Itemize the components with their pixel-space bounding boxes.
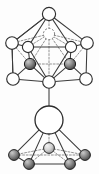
hidden-bond — [54, 149, 80, 154]
hidden-bond — [33, 38, 46, 59]
bond — [74, 68, 82, 75]
cluster-structure-figure — [0, 0, 99, 174]
atom-base-left-front — [24, 159, 35, 170]
atom-base-right-back — [80, 150, 91, 161]
atom-lower-left-outer — [7, 73, 20, 86]
hidden-bond — [18, 35, 44, 41]
bond — [12, 49, 13, 73]
cluster-structure-svg — [0, 0, 99, 174]
hidden-bond — [19, 149, 44, 154]
atom-base-right-front — [65, 159, 76, 170]
atom-lower-right-outer — [80, 73, 93, 86]
atom-upper-left-inner — [22, 41, 33, 52]
bond — [86, 49, 87, 73]
bond — [55, 79, 80, 81]
atom-shaded-left — [24, 58, 35, 69]
atom-base-center-sphere — [44, 143, 55, 154]
atom-base-left-back — [9, 150, 20, 161]
bond — [74, 158, 80, 162]
bond — [19, 79, 43, 81]
atom-upper-inner-hidden — [43, 28, 54, 39]
bond — [29, 52, 30, 59]
atom-upper-right-inner — [65, 41, 76, 52]
bond — [17, 67, 26, 75]
atom-cage-bottom-vertex — [43, 76, 56, 89]
bond — [18, 158, 24, 162]
atom-upper-right-outer — [81, 37, 94, 50]
atom-shaded-right — [64, 58, 75, 69]
atoms-group — [6, 7, 94, 169]
atom-central-large-atom — [35, 106, 63, 134]
atom-upper-left-outer — [6, 37, 19, 50]
atom-apex-top — [42, 7, 55, 20]
